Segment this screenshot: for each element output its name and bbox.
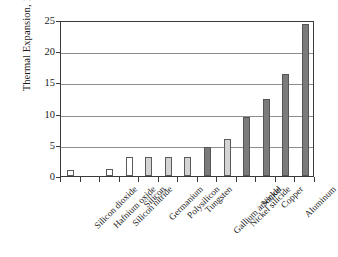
bar-slot xyxy=(120,20,140,176)
x-axis-tick-mark xyxy=(275,177,276,182)
x-axis-tick-mark xyxy=(216,177,217,182)
bar xyxy=(106,169,113,176)
bar xyxy=(165,157,172,176)
y-axis-tick-label: 0 xyxy=(33,172,55,182)
bar xyxy=(282,74,289,176)
y-axis-tick-label: 20 xyxy=(33,47,55,57)
bar xyxy=(67,170,74,176)
x-axis-tick-mark xyxy=(119,177,120,182)
bar-slot xyxy=(256,20,276,176)
bar xyxy=(204,147,211,176)
bar xyxy=(263,99,270,176)
bar-slot xyxy=(100,20,120,176)
bar xyxy=(302,24,309,176)
bar-slot xyxy=(217,20,237,176)
y-axis-tick-label: 25 xyxy=(33,16,55,26)
bar-slot xyxy=(178,20,198,176)
bar-slot xyxy=(198,20,218,176)
x-axis-tick-mark xyxy=(294,177,295,182)
y-axis-tick-label: 5 xyxy=(33,141,55,151)
x-axis-tick-mark xyxy=(60,177,61,182)
x-axis-tick-mark xyxy=(197,177,198,182)
bar-slot xyxy=(295,20,315,176)
bar xyxy=(184,157,191,176)
bar-slot xyxy=(139,20,159,176)
x-axis-tick-mark xyxy=(314,177,315,182)
x-axis-tick-mark xyxy=(177,177,178,182)
bar-slot xyxy=(159,20,179,176)
bar-slot xyxy=(237,20,257,176)
x-axis-tick-mark xyxy=(255,177,256,182)
bar-slot xyxy=(61,20,81,176)
plot-area xyxy=(60,21,314,177)
bar xyxy=(243,117,250,176)
y-axis-tick-label: 15 xyxy=(33,78,55,88)
x-axis-tick-mark xyxy=(158,177,159,182)
x-axis-tick-mark xyxy=(138,177,139,182)
bar-series xyxy=(61,22,313,176)
bar xyxy=(126,157,133,176)
x-axis-tick-mark xyxy=(80,177,81,182)
bar-slot xyxy=(81,20,101,176)
x-axis-tick-mark xyxy=(236,177,237,182)
bar xyxy=(224,139,231,176)
bar-slot xyxy=(276,20,296,176)
x-axis-category-label: Aluminum xyxy=(302,184,337,219)
y-axis-tick-label: 10 xyxy=(33,110,55,120)
x-axis-tick-mark xyxy=(99,177,100,182)
bar xyxy=(145,157,152,176)
